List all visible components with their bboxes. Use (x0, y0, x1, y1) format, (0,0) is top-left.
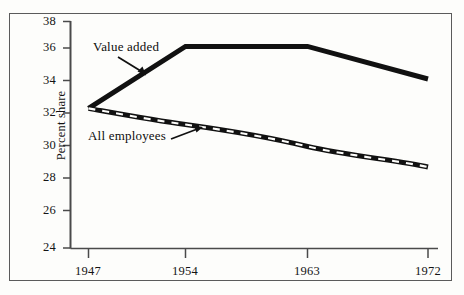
y-tick-label-26: 26 (26, 203, 56, 218)
series-line-value-added (89, 46, 429, 108)
y-tick-label-38: 38 (26, 14, 56, 29)
series-label-all-employees: All employees (88, 128, 166, 144)
series-label-value-added: Value added (93, 39, 159, 55)
x-tick-label-1947: 1947 (58, 264, 118, 279)
y-tick-label-24: 24 (26, 240, 56, 255)
annotation-arrow-value-added (118, 57, 146, 76)
y-tick-label-30: 30 (26, 138, 56, 153)
x-tick-label-1963: 1963 (277, 264, 337, 279)
x-tick-label-1954: 1954 (155, 264, 215, 279)
chart-plot-area: Percent share 38 36 34 32 30 28 26 24 19… (0, 0, 464, 295)
y-tick-label-28: 28 (26, 170, 56, 185)
figure-container: Percent share 38 36 34 32 30 28 26 24 19… (0, 0, 464, 295)
y-tick-label-36: 36 (26, 40, 56, 55)
annotation-arrow-all-employees (171, 126, 203, 140)
y-tick-label-34: 34 (26, 73, 56, 88)
y-tick-label-32: 32 (26, 105, 56, 120)
x-axis-ticks (89, 249, 429, 259)
x-tick-label-1972: 1972 (398, 264, 458, 279)
chart-svg (0, 0, 464, 295)
